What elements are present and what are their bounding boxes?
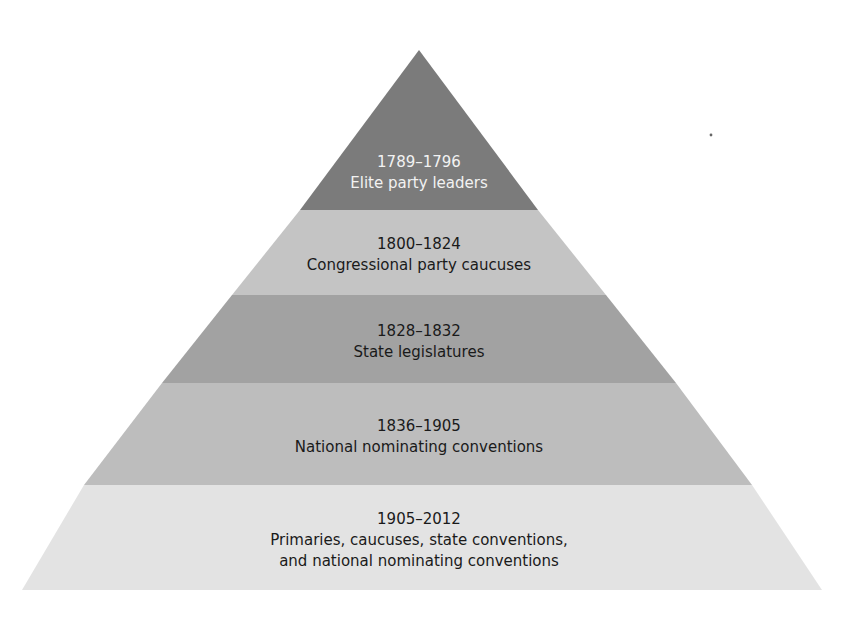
pyramid-layer-4: 1836–1905National nominating conventions — [84, 383, 752, 485]
layer-period: 1905–2012 — [377, 510, 461, 528]
layer-period: 1828–1832 — [377, 322, 461, 340]
pyramid-layer-1: 1789–1796Elite party leaders — [300, 50, 538, 210]
layer-period: 1836–1905 — [377, 417, 461, 435]
layer-description: State legislatures — [353, 343, 484, 361]
layer-description: Elite party leaders — [350, 174, 488, 192]
layer-description: and national nominating conventions — [279, 552, 559, 570]
pyramid-layer-5: 1905–2012Primaries, caucuses, state conv… — [22, 485, 822, 590]
nomination-methods-pyramid: 1789–1796Elite party leaders1800–1824Con… — [0, 0, 844, 620]
layer-period: 1789–1796 — [377, 153, 461, 171]
layer-description: Congressional party caucuses — [307, 256, 532, 274]
layer-period: 1800–1824 — [377, 235, 461, 253]
stray-dot — [710, 134, 713, 137]
pyramid-layer-2: 1800–1824Congressional party caucuses — [232, 210, 606, 295]
layer-description: Primaries, caucuses, state conventions, — [270, 531, 568, 549]
layer-description: National nominating conventions — [295, 438, 544, 456]
pyramid-layer-3: 1828–1832State legislatures — [162, 295, 676, 383]
